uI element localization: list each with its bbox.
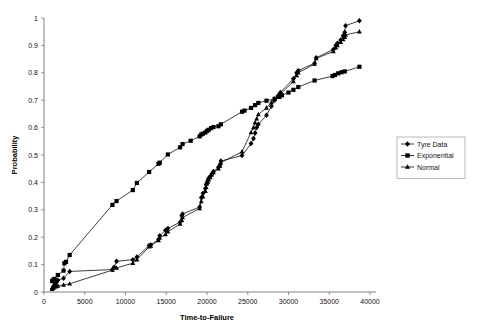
marker-square <box>219 122 223 126</box>
x-tick-label: 30000 <box>279 298 299 305</box>
y-tick-label: 0.7 <box>28 97 38 104</box>
series-normal <box>50 29 362 291</box>
marker-square <box>147 170 151 174</box>
marker-square <box>114 199 118 203</box>
marker-diamond <box>253 130 258 135</box>
marker-square <box>135 181 139 185</box>
marker-diamond <box>357 18 362 23</box>
x-tick-label: 25000 <box>238 298 258 305</box>
x-tick-label: 20000 <box>197 298 217 305</box>
marker-diamond <box>251 136 256 141</box>
marker-square <box>61 269 65 273</box>
x-tick-label: 0 <box>42 298 46 305</box>
y-tick-label: 0.1 <box>28 261 38 268</box>
marker-square <box>291 88 295 92</box>
legend-item-label: Normal <box>417 164 440 171</box>
marker-square <box>166 152 170 156</box>
legend[interactable]: Tyre DataExponentialNormal <box>397 137 465 179</box>
marker-square <box>296 85 300 89</box>
axes-group <box>44 18 376 292</box>
marker-square <box>242 109 246 113</box>
marker-diamond <box>343 23 348 28</box>
marker-square <box>286 90 290 94</box>
y-tick-label: 0.3 <box>28 206 38 213</box>
marker-triangle <box>253 120 258 124</box>
marker-triangle <box>254 116 259 120</box>
marker-square <box>56 273 60 277</box>
x-tick-label: 40000 <box>360 298 380 305</box>
marker-square <box>189 139 193 143</box>
marker-square <box>211 125 215 129</box>
marker-square <box>131 188 135 192</box>
marker-square <box>158 161 162 165</box>
series-line-0 <box>52 21 359 289</box>
marker-square <box>357 65 361 69</box>
marker-triangle <box>249 130 254 134</box>
marker-square <box>110 203 114 207</box>
x-tick-label: 10000 <box>116 298 136 305</box>
marker-triangle <box>256 112 261 116</box>
marker-diamond <box>114 259 119 264</box>
y-tick-label: 0.2 <box>28 234 38 241</box>
probability-plot-figure: 00.10.20.30.40.50.60.70.80.9105000100001… <box>0 0 477 333</box>
y-tick-label: 1 <box>34 15 38 22</box>
x-axis-ticks: 0500010000150002000025000300003500040000 <box>42 292 380 305</box>
series-line-1 <box>52 67 359 281</box>
y-axis-title: Probability <box>10 135 19 175</box>
y-tick-label: 0 <box>34 289 38 296</box>
y-tick-label: 0.5 <box>28 152 38 159</box>
y-tick-label: 0.8 <box>28 69 38 76</box>
legend-item-label: Exponential <box>417 152 454 160</box>
x-tick-label: 35000 <box>320 298 340 305</box>
marker-square <box>264 99 268 103</box>
marker-triangle <box>357 29 362 33</box>
marker-square <box>312 78 316 82</box>
marker-square <box>64 260 68 264</box>
y-tick-label: 0.6 <box>28 124 38 131</box>
marker-square <box>68 253 72 257</box>
marker-square <box>405 153 409 157</box>
y-axis-ticks: 00.10.20.30.40.50.60.70.80.91 <box>28 15 44 296</box>
chart-canvas: 00.10.20.30.40.50.60.70.80.9105000100001… <box>0 0 477 333</box>
marker-triangle <box>240 149 245 153</box>
marker-triangle <box>199 199 204 203</box>
series-exponential <box>50 65 361 283</box>
marker-square <box>249 106 253 110</box>
y-tick-label: 0.4 <box>28 179 38 186</box>
series-line-2 <box>52 32 359 290</box>
x-tick-label: 5000 <box>77 298 93 305</box>
marker-square <box>180 142 184 146</box>
x-axis-title: Time-to-Failure <box>180 313 234 322</box>
marker-square <box>256 101 260 105</box>
marker-square <box>52 277 56 281</box>
legend-item-label: Tyre Data <box>417 141 447 149</box>
marker-square <box>343 69 347 73</box>
y-tick-label: 0.9 <box>28 42 38 49</box>
x-tick-label: 15000 <box>157 298 177 305</box>
